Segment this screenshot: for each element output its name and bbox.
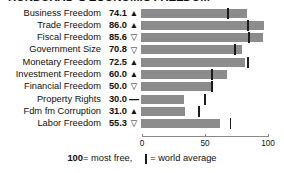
row-plot xyxy=(141,68,284,80)
axis-tick-label: 100 xyxy=(261,140,275,148)
row-label: Monetary Freedom xyxy=(0,58,105,67)
value-bar xyxy=(141,95,184,104)
axis-tick xyxy=(142,134,143,137)
legend-free-text: = most free, xyxy=(83,154,132,163)
row-value: 70.8 xyxy=(105,45,127,54)
row-plot xyxy=(141,81,284,93)
axis-tick-label: 0 xyxy=(140,140,145,148)
axis-tick-label: 50 xyxy=(200,140,209,148)
row-plot xyxy=(141,56,284,68)
trend-up-icon: ▲ xyxy=(127,107,141,116)
world-average-marker xyxy=(227,8,229,19)
value-bar xyxy=(141,107,185,116)
value-bar xyxy=(141,33,263,42)
value-bar xyxy=(141,9,247,18)
economic-freedom-chart: HONDURAS 'S ECONOMIC FREEDOM Business Fr… xyxy=(0,0,284,173)
chart-row: Monetary Freedom72.5▲ xyxy=(0,56,284,68)
world-average-marker xyxy=(247,20,249,31)
legend-average-text: = world average xyxy=(150,154,216,163)
value-bar xyxy=(141,21,264,30)
chart-row: Trade Freedom86.0▲ xyxy=(0,19,284,31)
row-plot xyxy=(141,7,284,19)
trend-up-icon: ▲ xyxy=(127,21,141,30)
legend-free-value: 100 xyxy=(67,154,83,163)
trend-down-icon: ▽ xyxy=(127,82,141,91)
chart-row: Financial Freedom50.0▽ xyxy=(0,81,284,93)
world-average-marker xyxy=(198,106,200,117)
vertical-tick-icon xyxy=(145,154,147,164)
row-value: 86.0 xyxy=(105,21,127,30)
chart-row: Property Rights30.0— xyxy=(0,93,284,105)
row-label: Investment Freedom xyxy=(0,70,105,79)
row-plot xyxy=(141,118,284,130)
row-label: Property Rights xyxy=(0,95,105,104)
row-value: 31.0 xyxy=(105,107,127,116)
world-average-marker xyxy=(248,32,250,43)
row-value: 50.0 xyxy=(105,82,127,91)
row-label: Business Freedom xyxy=(0,9,105,18)
world-average-marker xyxy=(247,57,249,68)
world-average-marker xyxy=(211,81,213,92)
x-axis: 050100 xyxy=(142,136,268,137)
chart-legend: 100 = most free, = world average xyxy=(0,154,284,164)
axis-tick xyxy=(268,134,269,137)
trend-up-icon: ▲ xyxy=(127,58,141,67)
trend-down-icon: ▽ xyxy=(127,119,141,128)
row-plot xyxy=(141,105,284,117)
row-plot xyxy=(141,32,284,44)
world-average-marker xyxy=(234,44,236,55)
row-plot xyxy=(141,19,284,31)
chart-row: Investment Freedom60.0▲ xyxy=(0,68,284,80)
value-bar xyxy=(141,119,220,128)
row-label: Government Size xyxy=(0,45,105,54)
trend-up-icon: ▲ xyxy=(127,70,141,79)
chart-row: Fiscal Freedom85.6▽ xyxy=(0,32,284,44)
row-label: Labor Freedom xyxy=(0,119,105,128)
row-value: 30.0 xyxy=(105,95,127,104)
row-label: Financial Freedom xyxy=(0,82,105,91)
row-plot xyxy=(141,44,284,56)
row-value: 85.6 xyxy=(105,33,127,42)
trend-down-icon: ▽ xyxy=(127,33,141,42)
value-bar xyxy=(141,70,227,79)
axis-tick xyxy=(205,134,206,137)
row-label: Trade Freedom xyxy=(0,21,105,30)
row-value: 74.1 xyxy=(105,9,127,18)
row-label: Fiscal Freedom xyxy=(0,33,105,42)
row-value: 72.5 xyxy=(105,58,127,67)
chart-row: Business Freedom74.1▲ xyxy=(0,7,284,19)
page-title: HONDURAS 'S ECONOMIC FREEDOM xyxy=(8,0,210,3)
world-average-marker xyxy=(230,118,232,129)
chart-row: Labor Freedom55.3▽ xyxy=(0,118,284,130)
bar-rows: Business Freedom74.1▲Trade Freedom86.0▲F… xyxy=(0,7,284,130)
world-average-marker xyxy=(204,94,206,105)
trend-flat-icon: — xyxy=(127,95,141,104)
value-bar xyxy=(141,58,245,67)
trend-down-icon: ▽ xyxy=(127,46,141,55)
chart-title-strip: HONDURAS 'S ECONOMIC FREEDOM xyxy=(0,0,284,6)
value-bar xyxy=(141,45,242,54)
trend-up-icon: ▲ xyxy=(127,9,141,18)
row-value: 60.0 xyxy=(105,70,127,79)
value-bar xyxy=(141,82,213,91)
row-label: Fdm fm Corruption xyxy=(0,107,105,116)
row-value: 55.3 xyxy=(105,119,127,128)
chart-row: Fdm fm Corruption31.0▲ xyxy=(0,105,284,117)
chart-row: Government Size70.8▽ xyxy=(0,44,284,56)
row-plot xyxy=(141,93,284,105)
world-average-marker xyxy=(211,69,213,80)
